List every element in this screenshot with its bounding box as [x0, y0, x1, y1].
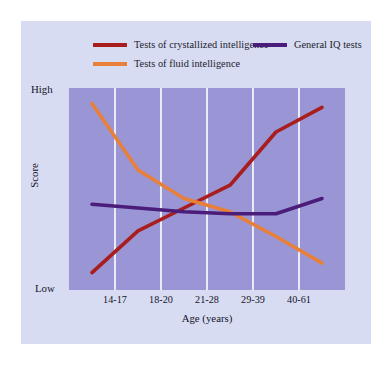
chart-figure: Tests of crystallized intelligence Tests… [0, 0, 392, 365]
plot-area [69, 88, 345, 290]
legend-label-fluid: Tests of fluid intelligence [134, 59, 240, 69]
legend-label-crystallized: Tests of crystallized intelligence [134, 40, 269, 50]
legend-swatch-fluid [93, 62, 127, 65]
x-axis-title: Age (years) [69, 313, 345, 324]
x-tick-label: 40-61 [269, 295, 329, 305]
y-axis-high-label: High [31, 84, 53, 95]
plot-svg [69, 88, 345, 290]
y-axis-low-label: Low [35, 283, 55, 294]
gridlines [115, 88, 299, 290]
legend-swatch-crystallized [93, 43, 127, 46]
legend-swatch-general-iq [253, 43, 287, 46]
legend-item-crystallized: Tests of crystallized intelligence [93, 40, 269, 50]
chart-legend: Tests of crystallized intelligence Tests… [21, 21, 371, 83]
x-axis-tick-labels: 14-1718-2021-2829-3940-61 [69, 295, 345, 309]
legend-item-general-iq: General IQ tests [253, 40, 362, 50]
legend-item-fluid: Tests of fluid intelligence [93, 59, 240, 69]
y-axis-title: Score [29, 140, 40, 210]
legend-label-general-iq: General IQ tests [294, 40, 362, 50]
